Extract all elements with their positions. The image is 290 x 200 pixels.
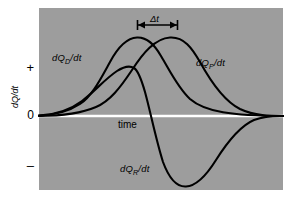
curve-label-dQR-main: dQ (120, 163, 133, 174)
delta-t-label: Δt (150, 13, 159, 24)
curve-label-dQP-tail: /dt (214, 57, 225, 68)
delta-t-right-arrowhead (170, 22, 177, 29)
curve-label-dQD-main: dQ (52, 52, 65, 63)
y-axis-title: dQ/dt (10, 69, 20, 125)
curve-label-dQR-tail: /dt (138, 163, 149, 174)
curve-label-dQP: dQP/dt (196, 57, 225, 70)
curve-label-dQR: dQR/dt (120, 163, 150, 176)
curve-label-dQD-tail: /dt (70, 52, 81, 63)
delta-t-left-arrowhead (138, 22, 145, 29)
y-axis-tick-minus: – (14, 160, 34, 171)
curve-dQR-dt (39, 67, 283, 187)
chart-figure: + 0 – dQ/dt time dQD/dt dQP/dt dQR/dt Δt (0, 0, 290, 200)
curve-label-dQD: dQD/dt (52, 52, 82, 65)
x-axis-label: time (118, 119, 137, 130)
curve-label-dQP-main: dQ (196, 57, 209, 68)
